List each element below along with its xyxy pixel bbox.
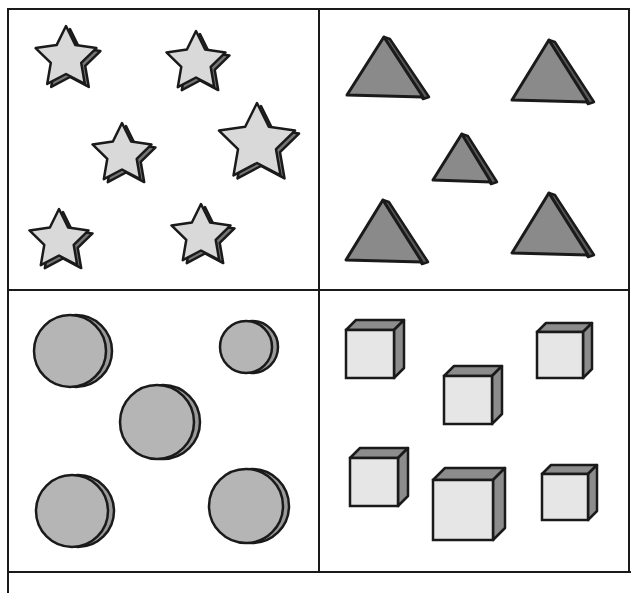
triangle-icon	[347, 37, 429, 99]
cube-icon	[542, 465, 597, 520]
star-icon	[93, 123, 156, 182]
cube-icon	[350, 448, 408, 506]
circle-icon	[209, 469, 289, 543]
star-icon	[219, 103, 299, 178]
shape-group-cubes	[346, 320, 597, 540]
triangle-icon	[346, 200, 428, 264]
circle-icon	[36, 475, 114, 547]
star-icon	[30, 209, 93, 268]
circle-icon	[34, 315, 112, 387]
circle-icon	[120, 385, 200, 459]
shape-group-circles	[34, 315, 289, 547]
triangle-icon	[433, 134, 497, 184]
shape-group-triangles	[346, 37, 594, 264]
shapes-canvas	[0, 0, 631, 593]
triangle-icon	[512, 193, 594, 257]
cube-icon	[433, 468, 505, 540]
star-icon	[172, 204, 235, 263]
cube-icon	[537, 323, 592, 378]
star-icon	[36, 26, 101, 87]
triangle-icon	[512, 40, 594, 104]
shape-group-stars	[30, 26, 300, 268]
star-icon	[167, 31, 230, 90]
cube-icon	[346, 320, 404, 378]
cube-icon	[444, 366, 502, 424]
circle-icon	[220, 321, 278, 373]
